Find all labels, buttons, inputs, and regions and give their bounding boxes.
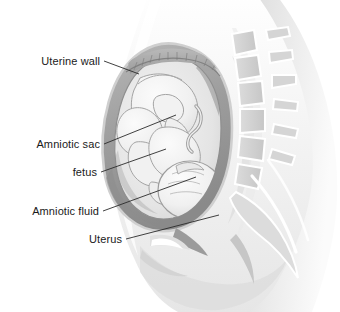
label-fetus: fetus — [73, 167, 97, 178]
illustration-figure: Uterine wallAmniotic sacfetusAmniotic fl… — [0, 0, 340, 312]
label-uterus: Uterus — [89, 234, 122, 245]
label-amniotic-sac: Amniotic sac — [36, 139, 100, 150]
label-amniotic-fluid: Amniotic fluid — [32, 206, 99, 217]
label-uterine-wall: Uterine wall — [41, 56, 100, 67]
anatomical-illustration — [0, 0, 340, 312]
